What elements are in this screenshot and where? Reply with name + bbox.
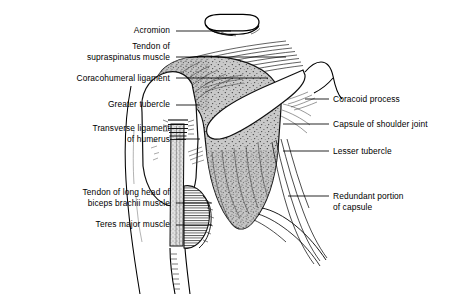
biceps-brachii-long-head-tendon xyxy=(170,124,184,246)
label-coracohumeral-ligament: Coracohumeral ligament xyxy=(14,73,170,84)
label-teres-major-muscle: Teres major muscle xyxy=(14,219,170,230)
label-supraspinatus-tendon: Tendon of supraspinatus muscle xyxy=(14,41,170,62)
capsule-fiber-fan-right xyxy=(281,104,311,133)
label-capsule-of-shoulder-joint: Capsule of shoulder joint xyxy=(333,119,445,130)
label-greater-tubercle: Greater tubercle xyxy=(14,99,170,110)
label-transverse-ligament-humerus: Transverse ligament of humerus xyxy=(14,123,170,144)
label-biceps-brachii-long-head-tendon: Tendon of long head of biceps brachii mu… xyxy=(14,187,170,208)
label-acromion: Acromion xyxy=(14,25,170,36)
acromion-shape xyxy=(205,14,260,36)
label-coracoid-process: Coracoid process xyxy=(333,94,445,105)
humeral-shaft xyxy=(170,248,190,294)
label-lesser-tubercle: Lesser tubercle xyxy=(333,146,445,157)
teres-major-muscle xyxy=(184,186,214,249)
label-redundant-portion-capsule: Redundant portion of capsule xyxy=(333,191,445,212)
shoulder-joint-anatomy-figure: Acromion Tendon of supraspinatus muscle … xyxy=(0,0,449,294)
